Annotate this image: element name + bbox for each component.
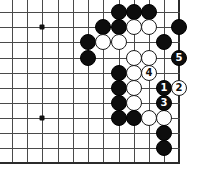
white-stone [126, 80, 142, 96]
white-stone [111, 34, 127, 50]
black-stone [111, 110, 127, 126]
grid-line-horizontal-9 [0, 148, 180, 149]
black-stone [141, 4, 157, 20]
stone-move-number: 1 [161, 83, 168, 93]
black-stone [156, 34, 172, 50]
grid-line-horizontal-6 [0, 103, 180, 104]
white-stone [141, 19, 157, 35]
move-stone-4: 4 [141, 65, 157, 81]
white-stone [126, 95, 142, 111]
star-point-0 [40, 25, 45, 30]
black-stone [111, 65, 127, 81]
star-point-1 [40, 116, 45, 121]
board-edge-line-bottom [0, 162, 180, 164]
black-stone [111, 95, 127, 111]
grid-line-vertical-4 [73, 0, 74, 164]
black-stone [95, 19, 111, 35]
move-stone-5: 5 [171, 50, 187, 66]
black-stone [126, 110, 142, 126]
white-stone [126, 65, 142, 81]
grid-line-vertical-5 [88, 0, 89, 164]
white-stone [126, 19, 142, 35]
white-stone [126, 50, 142, 66]
grid-line-vertical-1 [27, 0, 28, 164]
stone-move-number: 4 [146, 68, 153, 78]
grid-line-horizontal-5 [0, 88, 180, 89]
black-stone [171, 19, 187, 35]
black-stone [80, 34, 96, 50]
stone-move-number: 2 [176, 83, 183, 93]
white-stone [141, 110, 157, 126]
white-stone [95, 34, 111, 50]
grid-line-vertical-3 [58, 0, 59, 164]
stone-move-number: 5 [176, 53, 183, 63]
black-stone [111, 19, 127, 35]
move-stone-2: 2 [171, 80, 187, 96]
black-stone [156, 140, 172, 156]
move-stone-1: 1 [156, 80, 172, 96]
white-stone [156, 110, 172, 126]
grid-line-horizontal-8 [0, 133, 180, 134]
black-stone [156, 125, 172, 141]
grid-line-vertical-0 [12, 0, 13, 164]
white-stone [141, 50, 157, 66]
black-stone [111, 80, 127, 96]
black-stone [80, 50, 96, 66]
go-board-diagram: 54123 [0, 0, 198, 184]
stone-move-number: 3 [161, 98, 168, 108]
move-stone-3: 3 [156, 95, 172, 111]
black-stone [111, 4, 127, 20]
black-stone [126, 4, 142, 20]
